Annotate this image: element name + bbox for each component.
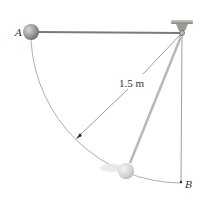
pendulum-rod	[130, 34, 182, 163]
horizontal-rod	[38, 32, 182, 33]
point-b-label: B	[184, 179, 192, 190]
support-bracket	[176, 24, 188, 31]
point-b-marker	[180, 181, 182, 183]
pivot-pin-icon	[180, 31, 185, 36]
ceiling-plate	[171, 20, 193, 24]
point-a-label: A	[14, 27, 22, 38]
radius-label: 1.5 m	[119, 77, 145, 89]
pendulum-diagram: 1.5 m A B	[0, 0, 205, 200]
ball-a	[23, 24, 39, 40]
ball-bottom	[118, 163, 134, 179]
swing-arc	[31, 40, 181, 183]
radius-dimension-line-lower	[77, 89, 128, 138]
vertical-reference-line	[181, 34, 182, 182]
